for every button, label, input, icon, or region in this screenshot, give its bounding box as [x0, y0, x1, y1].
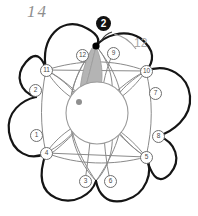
node-4: 4 — [40, 147, 53, 160]
node-1: 1 — [30, 129, 43, 142]
node-8: 8 — [152, 130, 165, 143]
node-7: 7 — [149, 87, 162, 100]
page-number-annotation: 14 — [27, 2, 48, 22]
diagram-canvas: 14 12 2 1 2 3 4 5 6 7 8 9 10 11 12 — [0, 0, 198, 216]
lens-foot-point — [76, 99, 82, 105]
node-3: 3 — [79, 175, 92, 188]
node-12: 12 — [76, 49, 89, 62]
node-10: 10 — [140, 65, 153, 78]
node-2: 2 — [29, 84, 42, 97]
node-5: 5 — [140, 151, 153, 164]
point-markers-layer — [0, 0, 198, 216]
step-marker-2: 2 — [96, 16, 111, 31]
side-annotation-12: 12 — [134, 36, 147, 50]
apex-point — [92, 42, 99, 49]
node-9: 9 — [107, 47, 120, 60]
node-6: 6 — [104, 175, 117, 188]
node-11: 11 — [40, 64, 53, 77]
